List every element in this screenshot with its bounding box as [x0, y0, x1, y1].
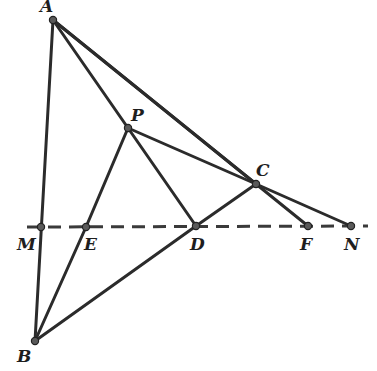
- point-c: [252, 180, 259, 187]
- label-d: D: [189, 234, 205, 254]
- segments-group: [35, 20, 351, 341]
- point-n: [347, 222, 354, 229]
- point-a: [49, 16, 56, 23]
- segment-ab: [35, 20, 53, 341]
- segment-pe: [86, 128, 128, 227]
- geometry-diagram: ABCPMEDFN: [0, 0, 377, 371]
- segment-ap: [53, 20, 128, 128]
- segment-cn: [256, 184, 351, 226]
- label-e: E: [83, 234, 98, 254]
- points-group: [31, 16, 354, 344]
- label-p: P: [130, 105, 145, 125]
- point-d: [192, 222, 199, 229]
- label-m: M: [16, 234, 37, 254]
- point-e: [82, 223, 89, 230]
- point-m: [37, 223, 44, 230]
- label-f: F: [299, 234, 314, 254]
- diagram-canvas: ABCPMEDFN: [0, 0, 377, 371]
- label-a: A: [38, 0, 53, 16]
- segment-dc: [196, 184, 256, 226]
- point-b: [31, 337, 38, 344]
- label-n: N: [343, 234, 361, 254]
- label-c: C: [256, 160, 270, 180]
- segment-ac: [53, 20, 256, 184]
- labels-group: ABCPMEDFN: [16, 0, 361, 366]
- point-f: [304, 222, 311, 229]
- point-p: [124, 124, 131, 131]
- label-b: B: [16, 346, 31, 366]
